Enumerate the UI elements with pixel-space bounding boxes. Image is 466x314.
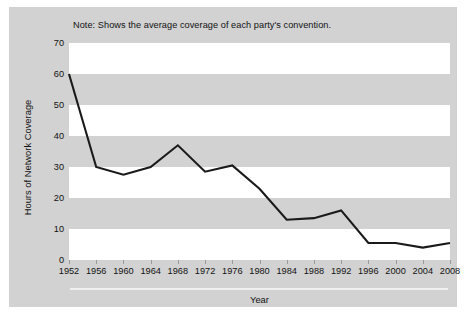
chart-panel: Note: Shows the average coverage of each… <box>9 7 457 307</box>
chart-note: Note: Shows the average coverage of each… <box>73 20 331 30</box>
x-axis-tick-mark <box>69 260 70 264</box>
data-line-svg <box>69 43 450 260</box>
x-axis-tick-mark <box>423 260 424 264</box>
y-axis-tick-label: 30 <box>38 162 64 172</box>
x-axis-tick-mark <box>205 260 206 264</box>
x-axis-tick-mark <box>178 260 179 264</box>
x-axis-tick-mark <box>232 260 233 264</box>
x-axis-tick-mark <box>314 260 315 264</box>
x-axis-tick-labels: 1952195619601964196819721976198019841988… <box>69 266 450 280</box>
x-axis-tick-mark <box>368 260 369 264</box>
y-axis-tick-label: 40 <box>38 131 64 141</box>
y-axis-tick-label: 10 <box>38 224 64 234</box>
plot-area <box>69 43 450 260</box>
x-axis-tick-mark <box>450 260 451 264</box>
y-axis-tick-labels: 010203040506070 <box>36 43 64 260</box>
x-axis-tick-mark <box>396 260 397 264</box>
x-axis-tick-mark <box>123 260 124 264</box>
x-axis-tick-mark <box>260 260 261 264</box>
y-axis-title: Hours of Network Coverage <box>22 78 33 238</box>
x-axis-title: Year <box>69 294 450 305</box>
y-axis-tick-label: 0 <box>38 255 64 265</box>
x-axis-tick-label: 2008 <box>430 266 466 276</box>
x-axis-tick-mark <box>287 260 288 264</box>
x-axis-tick-mark <box>341 260 342 264</box>
x-axis-tick-mark <box>151 260 152 264</box>
coverage-line <box>69 74 450 248</box>
y-axis-tick-label: 60 <box>38 69 64 79</box>
chart-figure: Note: Shows the average coverage of each… <box>0 0 466 314</box>
x-axis-tick-mark <box>96 260 97 264</box>
x-axis-rule <box>70 288 448 290</box>
y-axis-tick-label: 20 <box>38 193 64 203</box>
y-axis-tick-label: 50 <box>38 100 64 110</box>
y-axis-tick-label: 70 <box>38 38 64 48</box>
